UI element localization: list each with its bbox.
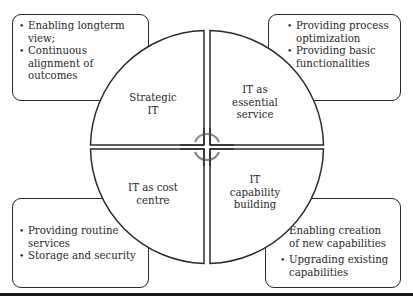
label-line: IT — [215, 174, 295, 187]
quadrant-label-strategic-it: Strategic IT — [113, 92, 193, 117]
label-line: centre — [113, 195, 193, 208]
quadrant-label-essential-service: IT as essential service — [215, 84, 295, 122]
label-line: capability — [215, 187, 295, 200]
quadrant-top-left — [91, 31, 205, 146]
label-line: essential — [215, 97, 295, 110]
quadrant-label-cost-centre: IT as cost centre — [113, 182, 193, 207]
quadrant-circle — [0, 0, 413, 305]
label-line: IT as — [215, 84, 295, 97]
quadrant-label-capability-building: IT capability building — [215, 174, 295, 212]
label-line: Strategic — [113, 92, 193, 105]
label-line: building — [215, 199, 295, 212]
label-line: service — [215, 109, 295, 122]
label-line: IT as cost — [113, 182, 193, 195]
bottom-rule-divider — [0, 293, 413, 296]
label-line: IT — [113, 105, 193, 118]
